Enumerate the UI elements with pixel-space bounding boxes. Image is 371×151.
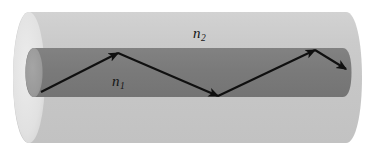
refractive-index-label-cladding: n2 [193, 26, 206, 41]
fiber-illustration [0, 0, 371, 151]
cladding-index-subscript: 2 [201, 33, 206, 43]
cladding-index-symbol: n [193, 25, 201, 41]
refractive-index-label-core: n1 [112, 74, 125, 89]
core-face-ellipse [25, 48, 42, 97]
core-end-face [25, 48, 42, 97]
core-index-symbol: n [112, 73, 120, 89]
core-index-subscript: 1 [120, 81, 125, 91]
optical-fiber-diagram: n2 n1 [0, 0, 371, 151]
